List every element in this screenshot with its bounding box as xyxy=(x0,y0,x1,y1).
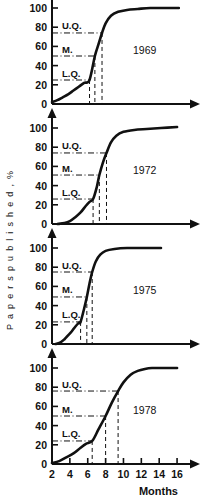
x-tick-label-6: 6 xyxy=(85,468,91,480)
y-tick-label-1969-40: 40 xyxy=(35,60,47,72)
x-tick-label-12: 12 xyxy=(135,468,147,480)
year-label-1978: 1978 xyxy=(133,404,157,416)
y-tick-label-1969-0: 0 xyxy=(41,98,47,110)
y-axis-arrow-1978 xyxy=(48,348,57,358)
quartile-label-1969-upper: U.Q. xyxy=(62,20,82,31)
y-tick-label-1969-20: 20 xyxy=(35,79,47,91)
y-tick-label-1972-40: 40 xyxy=(35,180,47,192)
y-tick-label-1969-100: 100 xyxy=(29,2,47,14)
y-tick-label-1975-0: 0 xyxy=(41,338,47,350)
quartile-label-1975-lower: L.Q. xyxy=(62,309,80,320)
year-label-1969: 1969 xyxy=(133,44,157,56)
y-tick-label-1978-60: 60 xyxy=(35,400,47,412)
x-tick-label-2: 2 xyxy=(49,468,55,480)
panel-1975: 020406080100U.Q.M.L.Q.1975 xyxy=(29,228,200,350)
x-tick-label-4: 4 xyxy=(67,468,73,480)
x-tick-label-14: 14 xyxy=(153,468,165,480)
year-label-1975: 1975 xyxy=(133,284,157,296)
y-tick-label-1969-80: 80 xyxy=(35,21,47,33)
y-tick-label-1969-60: 60 xyxy=(35,40,47,52)
x-tick-label-10: 10 xyxy=(118,468,130,480)
quartile-label-1972-upper: U.Q. xyxy=(62,140,82,151)
quartile-label-1978-median: M. xyxy=(62,404,73,415)
x-tick-label-8: 8 xyxy=(103,468,109,480)
cumulative-publication-chart: P a p e r s p u b l i s h e d , %0204060… xyxy=(0,0,208,504)
x-tick-label-16: 16 xyxy=(171,468,183,480)
x-axis-title: Months xyxy=(139,485,178,497)
panel-1969: 020406080100U.Q.M.L.Q.1969 xyxy=(29,0,200,110)
y-tick-label-1972-100: 100 xyxy=(29,122,47,134)
quartile-label-1975-median: M. xyxy=(62,284,73,295)
y-tick-label-1975-20: 20 xyxy=(35,319,47,331)
y-axis-arrow-1975 xyxy=(48,228,57,238)
quartile-label-1972-median: M. xyxy=(62,163,73,174)
y-tick-label-1978-100: 100 xyxy=(29,362,47,374)
y-tick-label-1972-80: 80 xyxy=(35,141,47,153)
quartile-label-1969-lower: L.Q. xyxy=(62,68,80,79)
x-axis-arrow-1972 xyxy=(190,220,200,229)
y-tick-label-1978-0: 0 xyxy=(41,458,47,470)
y-tick-label-1972-0: 0 xyxy=(41,218,47,230)
panel-1972: 020406080100U.Q.M.L.Q.1972 xyxy=(29,108,200,230)
quartile-label-1975-upper: U.Q. xyxy=(62,260,82,271)
x-axis-arrow-1978 xyxy=(190,460,200,469)
y-tick-label-1978-80: 80 xyxy=(35,381,47,393)
y-tick-label-1975-60: 60 xyxy=(35,280,47,292)
quartile-label-1969-median: M. xyxy=(62,44,73,55)
y-axis-title: P a p e r s p u b l i s h e d , % xyxy=(5,170,15,330)
x-axis-arrow-1975 xyxy=(190,340,200,349)
y-tick-label-1975-40: 40 xyxy=(35,300,47,312)
y-axis-arrow-1972 xyxy=(48,108,57,118)
x-axis-arrow-1969 xyxy=(190,100,200,109)
figure-container: P a p e r s p u b l i s h e d , %0204060… xyxy=(0,0,208,504)
y-tick-label-1972-20: 20 xyxy=(35,199,47,211)
quartile-label-1972-lower: L.Q. xyxy=(62,187,80,198)
y-tick-label-1978-40: 40 xyxy=(35,420,47,432)
y-tick-label-1978-20: 20 xyxy=(35,439,47,451)
y-tick-label-1975-80: 80 xyxy=(35,261,47,273)
y-tick-label-1975-100: 100 xyxy=(29,242,47,254)
year-label-1972: 1972 xyxy=(133,164,157,176)
quartile-label-1978-lower: L.Q. xyxy=(62,428,80,439)
panel-1978: 020406080100U.Q.M.L.Q.1978 xyxy=(29,348,200,470)
y-tick-label-1972-60: 60 xyxy=(35,160,47,172)
quartile-label-1978-upper: U.Q. xyxy=(62,379,82,390)
